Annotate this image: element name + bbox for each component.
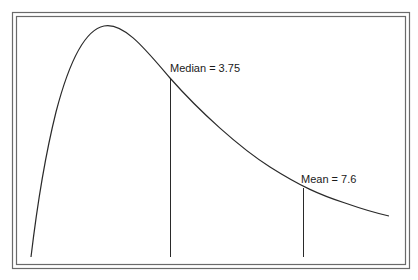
inner-frame: [17, 17, 406, 265]
density-curve: [31, 26, 389, 257]
outer-frame: [13, 13, 410, 269]
mean-label: Mean = 7.6: [301, 173, 356, 185]
chart-canvas: Median = 3.75 Mean = 7.6: [0, 0, 418, 280]
median-label: Median = 3.75: [170, 62, 240, 74]
